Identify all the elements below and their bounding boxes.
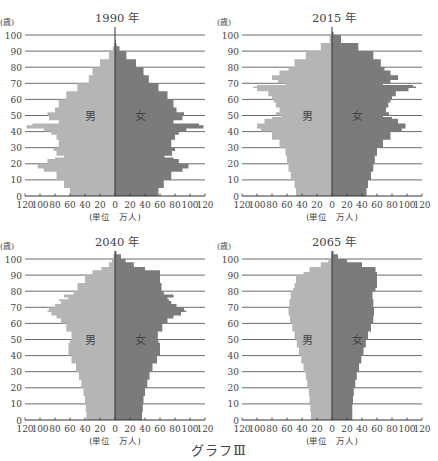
y-axis-label: (歳) — [0, 17, 14, 27]
y-tick-label: 80 — [11, 287, 23, 297]
chart-title: 2015 年 — [312, 11, 356, 25]
x-tick-label: 60 — [64, 424, 76, 434]
y-tick-label: 90 — [228, 271, 240, 281]
y-tick-label: 40 — [228, 351, 240, 361]
y-tick-label: 100 — [5, 31, 22, 41]
x-tick-label: 120 — [196, 200, 213, 210]
y-axis-label: (歳) — [0, 241, 14, 251]
x-tick-label: 20 — [124, 424, 136, 434]
pyramid-panel-2040: 0102030405060708090100(歳)120100806040200… — [0, 235, 214, 446]
x-tick-label: 40 — [139, 424, 151, 434]
y-tick-label: 50 — [228, 111, 240, 121]
x-tick-label: 80 — [169, 424, 181, 434]
y-tick-label: 60 — [228, 319, 240, 329]
male-bars — [253, 32, 332, 196]
y-tick-label: 10 — [228, 399, 240, 409]
y-tick-label: 80 — [228, 63, 240, 73]
x-axis-unit-label: (単位 万人) — [306, 212, 358, 222]
y-tick-label: 10 — [11, 175, 23, 185]
x-tick-label: 40 — [79, 200, 91, 210]
male-bars — [48, 251, 116, 420]
x-tick-label: 100 — [31, 424, 48, 434]
male-label: 男 — [85, 334, 96, 347]
pyramid-panel-2015: 0102030405060708090100(歳)120100806040200… — [217, 11, 431, 222]
y-tick-label: 20 — [11, 159, 23, 169]
y-tick-label: 20 — [228, 383, 240, 393]
x-tick-label: 60 — [281, 200, 293, 210]
y-tick-label: 100 — [222, 255, 239, 265]
y-tick-label: 60 — [11, 319, 23, 329]
x-tick-label: 100 — [31, 200, 48, 210]
y-tick-label: 80 — [228, 287, 240, 297]
y-tick-label: 70 — [228, 79, 240, 89]
female-label: 女 — [352, 109, 363, 123]
x-tick-label: 60 — [371, 200, 383, 210]
y-axis-label: (歳) — [217, 241, 231, 251]
y-tick-label: 40 — [228, 127, 240, 137]
x-tick-label: 40 — [356, 200, 368, 210]
male-label: 男 — [302, 334, 313, 347]
x-tick-label: 60 — [371, 424, 383, 434]
x-tick-label: 20 — [311, 200, 323, 210]
x-tick-label: 100 — [248, 424, 265, 434]
x-tick-label: 40 — [79, 424, 91, 434]
x-tick-label: 60 — [154, 200, 166, 210]
y-tick-label: 50 — [11, 111, 23, 121]
y-tick-label: 90 — [228, 47, 240, 57]
x-tick-label: 80 — [386, 424, 398, 434]
x-tick-label: 40 — [296, 200, 308, 210]
figure-caption: グラフⅢ — [0, 440, 438, 459]
x-tick-label: 80 — [49, 424, 61, 434]
y-tick-label: 70 — [11, 303, 23, 313]
x-tick-label: 0 — [112, 424, 118, 434]
y-tick-label: 10 — [11, 399, 23, 409]
female-label: 女 — [135, 109, 146, 123]
female-bars — [332, 32, 416, 196]
population-pyramid-figure: 0102030405060708090100(歳)120100806040200… — [0, 0, 438, 461]
x-tick-label: 60 — [64, 200, 76, 210]
x-tick-label: 80 — [266, 424, 278, 434]
y-tick-label: 20 — [228, 159, 240, 169]
y-axis-label: (歳) — [217, 17, 231, 27]
x-tick-label: 20 — [124, 200, 136, 210]
y-tick-label: 40 — [11, 127, 23, 137]
y-tick-label: 50 — [228, 335, 240, 345]
y-tick-label: 80 — [11, 63, 23, 73]
y-tick-label: 90 — [11, 271, 23, 281]
chart-title: 1990 年 — [95, 11, 139, 25]
y-tick-label: 10 — [228, 175, 240, 185]
pyramid-panel-2065: 0102030405060708090100(歳)120100806040200… — [217, 235, 431, 446]
x-tick-label: 80 — [386, 200, 398, 210]
male-label: 男 — [302, 110, 313, 123]
pyramid-panel-1990: 0102030405060708090100(歳)120100806040200… — [0, 11, 214, 222]
male-bars — [27, 40, 116, 196]
x-tick-label: 100 — [248, 200, 265, 210]
female-label: 女 — [352, 333, 363, 347]
x-tick-label: 20 — [341, 200, 353, 210]
y-tick-label: 90 — [11, 47, 23, 57]
x-tick-label: 20 — [341, 424, 353, 434]
y-tick-label: 60 — [11, 95, 23, 105]
y-tick-label: 70 — [228, 303, 240, 313]
y-tick-label: 60 — [228, 95, 240, 105]
x-tick-label: 120 — [196, 424, 213, 434]
x-axis-unit-label: (単位 万人) — [89, 212, 141, 222]
x-tick-label: 0 — [329, 424, 335, 434]
x-tick-label: 40 — [139, 200, 151, 210]
x-tick-label: 80 — [169, 200, 181, 210]
x-tick-label: 60 — [154, 424, 166, 434]
x-tick-label: 0 — [112, 200, 118, 210]
x-tick-label: 60 — [281, 424, 293, 434]
y-tick-label: 40 — [11, 351, 23, 361]
x-tick-label: 80 — [266, 200, 278, 210]
female-bars — [115, 40, 204, 196]
x-tick-label: 20 — [94, 200, 106, 210]
x-tick-label: 120 — [413, 200, 430, 210]
x-tick-label: 20 — [311, 424, 323, 434]
y-tick-label: 50 — [11, 335, 23, 345]
y-tick-label: 100 — [222, 31, 239, 41]
chart-title: 2065 年 — [312, 235, 356, 249]
y-tick-label: 20 — [11, 383, 23, 393]
female-label: 女 — [135, 333, 146, 347]
y-tick-label: 30 — [11, 367, 23, 377]
